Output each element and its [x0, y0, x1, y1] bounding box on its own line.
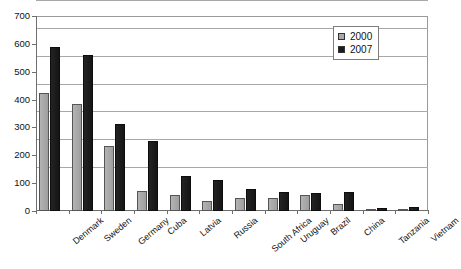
bar-brazil-2000 [300, 195, 310, 211]
x-tick-mark [363, 210, 364, 214]
bar-cuba-2007 [148, 141, 158, 211]
y-tick-label: 700 [0, 11, 30, 21]
legend-item-2000: 2000 [338, 30, 372, 43]
bar-uruguay-2000 [268, 198, 278, 211]
x-label-china: China [362, 216, 386, 238]
bar-brazil-2007 [311, 193, 321, 211]
y-tick-label: 200 [0, 150, 30, 160]
y-tick-label: 500 [0, 67, 30, 77]
gridline [36, 0, 428, 1]
bar-latvia-2007 [181, 176, 191, 211]
x-label-denmark: Denmark [71, 216, 105, 246]
y-tick-mark [32, 183, 36, 184]
x-tick-mark [36, 210, 37, 214]
y-tick-mark [32, 72, 36, 73]
bar-germany-2007 [115, 124, 125, 211]
y-tick-label: 400 [0, 95, 30, 105]
bar-germany-2000 [104, 146, 114, 211]
bar-group [37, 16, 70, 211]
x-tick-mark [330, 210, 331, 214]
x-tick-mark [395, 210, 396, 214]
bar-china-2000 [333, 204, 343, 211]
bar-sweden-2007 [83, 55, 93, 211]
x-label-cuba: Cuba [166, 216, 188, 237]
bar-group [266, 16, 299, 211]
x-tick-mark [167, 210, 168, 214]
x-label-germany: Germany [137, 216, 171, 247]
x-tick-mark [428, 210, 429, 214]
bar-latvia-2000 [170, 195, 180, 211]
x-tick-mark [101, 210, 102, 214]
y-tick-mark [32, 16, 36, 17]
y-tick-mark [32, 155, 36, 156]
y-tick-label: 0 [0, 206, 30, 216]
legend-label-2007: 2007 [350, 45, 372, 55]
x-label-latvia: Latvia [199, 216, 223, 238]
x-label-sweden: Sweden [103, 216, 134, 244]
black-square-icon [338, 46, 345, 53]
bar-cuba-2000 [137, 191, 147, 211]
legend-label-2000: 2000 [350, 32, 372, 42]
x-tick-mark [232, 210, 233, 214]
bar-uruguay-2007 [279, 192, 289, 212]
x-tick-mark [297, 210, 298, 214]
bar-group [102, 16, 135, 211]
bar-tanzania-2000 [366, 209, 376, 211]
x-tick-mark [265, 210, 266, 214]
bar-sweden-2000 [72, 104, 82, 211]
legend: 2000 2007 [333, 26, 379, 60]
bar-group [135, 16, 168, 211]
bar-group [168, 16, 201, 211]
legend-item-2007: 2007 [338, 43, 372, 56]
y-tick-mark [32, 44, 36, 45]
bar-denmark-2000 [39, 93, 49, 211]
bar-south-africa-2000 [235, 198, 245, 211]
bar-group [298, 16, 331, 211]
bar-group [233, 16, 266, 211]
x-label-vietnam: Vietnam [430, 216, 461, 244]
bar-russia-2007 [213, 180, 223, 211]
bar-tanzania-2007 [377, 208, 387, 211]
bar-south-africa-2007 [246, 189, 256, 211]
x-label-russia: Russia [233, 216, 260, 241]
bar-vietnam-2007 [409, 207, 419, 211]
y-tick-mark [32, 127, 36, 128]
bar-denmark-2007 [50, 47, 60, 211]
bar-vietnam-2000 [398, 209, 408, 211]
bar-russia-2000 [202, 201, 212, 211]
bar-group [200, 16, 233, 211]
gray-square-icon [338, 33, 345, 40]
x-tick-mark [134, 210, 135, 214]
y-tick-label: 600 [0, 39, 30, 49]
bar-group [70, 16, 103, 211]
y-tick-mark [32, 100, 36, 101]
x-label-tanzania: Tanzania [398, 216, 431, 246]
bar-china-2007 [344, 192, 354, 211]
x-label-brazil: Brazil [329, 216, 352, 237]
bar-group [396, 16, 429, 211]
x-tick-mark [199, 210, 200, 214]
y-tick-label: 100 [0, 178, 30, 188]
y-tick-label: 300 [0, 122, 30, 132]
x-tick-mark [69, 210, 70, 214]
